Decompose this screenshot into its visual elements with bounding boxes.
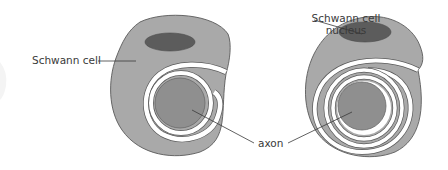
label-schwann-cell: Schwann cell (32, 54, 101, 66)
background-ghost (0, 62, 6, 100)
right-schwann-cell (305, 16, 422, 156)
right-axon (338, 82, 386, 130)
label-axon: axon (258, 137, 283, 149)
schwann-cell-diagram: Schwann cell Schwann cell nucleus axon (0, 0, 448, 170)
left-nucleus (145, 33, 195, 51)
label-nucleus-line2: nucleus (326, 24, 367, 36)
left-schwann-cell (111, 15, 231, 155)
left-axon (155, 78, 205, 128)
